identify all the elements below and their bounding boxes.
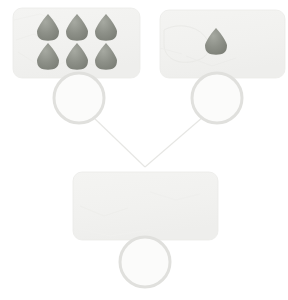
selection-ring-left[interactable] xyxy=(54,73,104,123)
diagram-scene xyxy=(0,0,288,300)
connector-group xyxy=(93,117,203,167)
connector-right-branch xyxy=(145,117,203,167)
selection-ring-bottom[interactable] xyxy=(120,237,170,287)
egg-tray-empty-panel[interactable] xyxy=(73,172,218,240)
selection-ring-right[interactable] xyxy=(192,73,242,123)
egg-tray-empty-group[interactable] xyxy=(73,172,218,240)
connector-left-branch xyxy=(93,117,145,167)
egg-tray-one-group[interactable] xyxy=(160,10,285,78)
egg-tray-six-group[interactable] xyxy=(13,8,140,78)
diagram-canvas xyxy=(0,0,288,300)
